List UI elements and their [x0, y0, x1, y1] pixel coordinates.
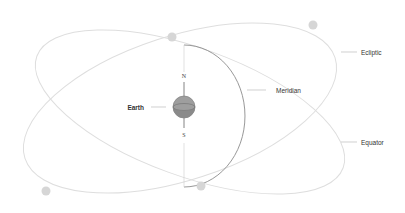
celestial-diagram: N S Earth Meridian Ecliptic Equator: [0, 0, 405, 213]
orbit-dot-bottom-left: [42, 187, 51, 196]
orbit-dot-top-left: [168, 33, 177, 42]
earth-icon: [173, 96, 195, 118]
earth-label: Earth: [127, 104, 144, 111]
meridian-arc: [184, 45, 245, 187]
equator-label: Equator: [361, 139, 385, 147]
orbit-dot-bottom-center: [197, 182, 206, 191]
meridian-label: Meridian: [276, 87, 301, 94]
north-label: N: [182, 73, 187, 79]
ecliptic-label: Ecliptic: [361, 49, 382, 57]
south-label: S: [182, 132, 185, 138]
orbit-dot-top-right: [309, 21, 318, 30]
